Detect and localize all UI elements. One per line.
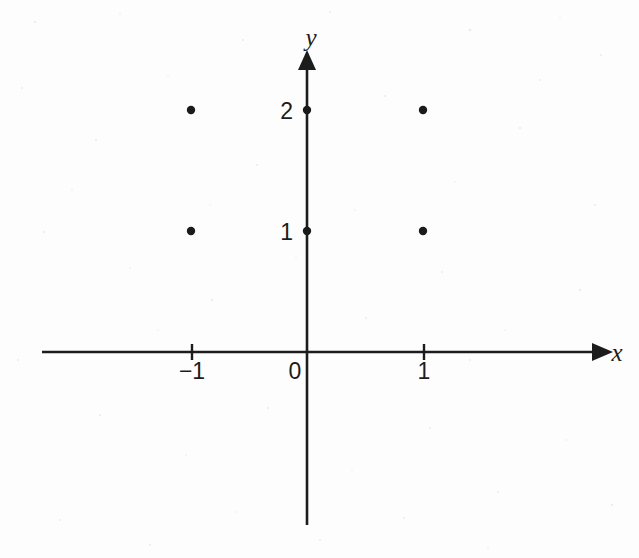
y-tick-label-1: 1 (280, 219, 293, 245)
arrow-right-icon (592, 343, 613, 361)
x-axis (42, 343, 613, 361)
y-tick-label-2: 2 (280, 98, 293, 124)
coordinate-plane-figure: x y −1 0 1 1 2 (0, 0, 639, 558)
data-point (303, 106, 311, 114)
data-point (187, 227, 195, 235)
x-tick-label-1: 1 (418, 358, 431, 384)
data-point (419, 227, 427, 235)
data-point (419, 106, 427, 114)
arrow-up-icon (298, 50, 316, 70)
x-tick-label-neg1: −1 (179, 358, 205, 384)
x-tick-label-0: 0 (289, 358, 302, 384)
data-point (303, 227, 311, 235)
data-point (187, 106, 195, 114)
scatter-plot: x y −1 0 1 1 2 (0, 0, 639, 558)
y-axis-label: y (302, 24, 317, 51)
y-axis (298, 50, 316, 525)
x-axis-label: x (610, 339, 622, 366)
